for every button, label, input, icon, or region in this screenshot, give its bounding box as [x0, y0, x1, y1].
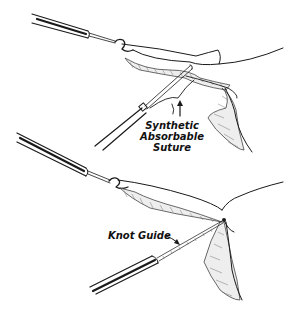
grasper-instrument-top [32, 14, 133, 51]
suture-label-line-1: Synthetic [137, 120, 207, 131]
ligation-illustration [0, 0, 293, 316]
bottom-panel [17, 133, 283, 300]
grasper-instrument-bottom [17, 133, 128, 189]
synthetic-absorbable-suture-label: Synthetic Absorbable Suture [137, 120, 207, 153]
suture-pointer-arrow [177, 100, 183, 116]
suture-label-line-3: Suture [137, 142, 207, 153]
suture-label-line-2: Absorbable [137, 131, 207, 142]
suture-loop [150, 80, 194, 114]
knot-guide-label: Knot Guide [108, 230, 171, 241]
